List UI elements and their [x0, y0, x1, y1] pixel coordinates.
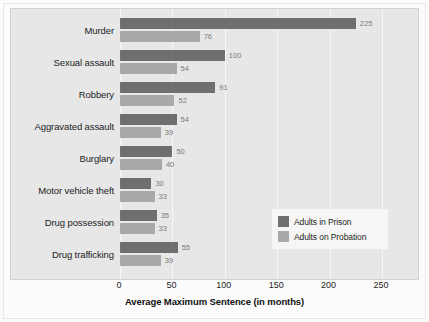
x-axis-title: Average Maximum Sentence (in months) — [10, 296, 419, 307]
bar-value-label: 39 — [165, 127, 173, 138]
legend-swatch-icon — [278, 216, 289, 227]
bar-group: Burglary5040 — [11, 143, 418, 175]
x-tick-label: 150 — [269, 280, 284, 290]
x-tick-label: 100 — [216, 280, 231, 290]
x-tick-label: 250 — [373, 280, 388, 290]
bar-value-label: 100 — [229, 50, 242, 61]
chart-figure: Murder22576Sexual assault10054Robbery915… — [0, 0, 429, 322]
x-tick-label: 50 — [166, 280, 176, 290]
bar-prison[interactable] — [120, 50, 225, 61]
x-tick-label: 0 — [116, 280, 121, 290]
bars-container: 10054 — [120, 47, 418, 79]
bar-value-label: 39 — [165, 255, 173, 266]
bar-value-label: 54 — [181, 63, 189, 74]
bar-probation[interactable] — [120, 95, 174, 106]
bar-prison[interactable] — [120, 82, 215, 93]
bar-probation[interactable] — [120, 191, 155, 202]
bar-probation[interactable] — [120, 255, 161, 266]
bar-probation[interactable] — [120, 223, 155, 234]
bar-probation[interactable] — [120, 159, 162, 170]
category-label: Motor vehicle theft — [11, 175, 114, 207]
bar-value-label: 33 — [159, 223, 167, 234]
bar-prison[interactable] — [120, 18, 356, 29]
bar-probation[interactable] — [120, 127, 161, 138]
bar-probation[interactable] — [120, 63, 177, 74]
category-label: Aggravated assault — [11, 111, 114, 143]
bar-prison[interactable] — [120, 242, 178, 253]
bar-value-label: 55 — [182, 242, 190, 253]
legend-label: Adults in Prison — [294, 217, 351, 227]
bar-value-label: 54 — [181, 114, 189, 125]
bar-value-label: 91 — [219, 82, 227, 93]
x-tick-label: 200 — [321, 280, 336, 290]
bar-prison[interactable] — [120, 178, 151, 189]
bar-value-label: 52 — [178, 95, 186, 106]
bar-prison[interactable] — [120, 210, 157, 221]
bar-value-label: 40 — [166, 159, 174, 170]
bar-group: Murder22576 — [11, 15, 418, 47]
bar-value-label: 33 — [159, 191, 167, 202]
bars-container: 22576 — [120, 15, 418, 47]
bars-container: 3033 — [120, 175, 418, 207]
bar-prison[interactable] — [120, 146, 172, 157]
bar-value-label: 35 — [161, 210, 169, 221]
bar-value-label: 50 — [176, 146, 184, 157]
category-label: Murder — [11, 15, 114, 47]
bar-group: Aggravated assault5439 — [11, 111, 418, 143]
chart-legend: Adults in PrisonAdults on Probation — [272, 209, 388, 249]
category-label: Drug trafficking — [11, 239, 114, 271]
legend-item[interactable]: Adults on Probation — [278, 229, 382, 244]
x-axis: 050100150200250 Average Maximum Sentence… — [10, 280, 419, 322]
bar-group: Motor vehicle theft3033 — [11, 175, 418, 207]
bar-value-label: 76 — [204, 31, 212, 42]
bar-group: Robbery9152 — [11, 79, 418, 111]
bar-probation[interactable] — [120, 31, 200, 42]
bars-container: 5439 — [120, 111, 418, 143]
bars-container: 5040 — [120, 143, 418, 175]
legend-swatch-icon — [278, 231, 289, 242]
legend-item[interactable]: Adults in Prison — [278, 214, 382, 229]
category-label: Drug possession — [11, 207, 114, 239]
legend-label: Adults on Probation — [294, 232, 366, 242]
bar-group: Sexual assault10054 — [11, 47, 418, 79]
bar-prison[interactable] — [120, 114, 177, 125]
category-label: Robbery — [11, 79, 114, 111]
category-label: Sexual assault — [11, 47, 114, 79]
bars-container: 9152 — [120, 79, 418, 111]
category-label: Burglary — [11, 143, 114, 175]
bar-value-label: 225 — [360, 18, 373, 29]
bar-value-label: 30 — [155, 178, 163, 189]
